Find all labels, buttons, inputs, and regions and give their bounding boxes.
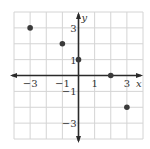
data-point (76, 57, 82, 63)
data-point (108, 73, 114, 79)
data-point (27, 25, 33, 31)
y-axis-label: y (81, 12, 88, 23)
coordinate-plane-chart: −3−11331−1−3 x y (0, 0, 150, 149)
y-tick-label: 1 (70, 55, 76, 66)
y-tick-label: −3 (62, 118, 77, 129)
y-tick-label: −1 (62, 86, 77, 97)
x-tick-label: 1 (91, 78, 97, 89)
y-tick-label: 3 (70, 23, 76, 34)
y-axis-up-arrow-icon (76, 12, 81, 19)
data-point (60, 41, 66, 47)
x-tick-label: −3 (23, 78, 38, 89)
data-point (124, 104, 130, 110)
x-tick-label: 3 (124, 78, 130, 89)
x-axis-label: x (136, 78, 142, 89)
